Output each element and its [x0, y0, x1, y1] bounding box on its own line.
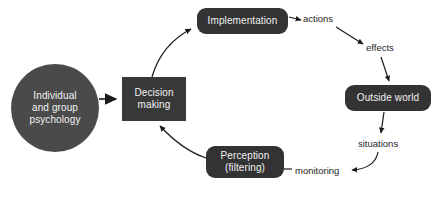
edge-outside-world-to-situations [381, 112, 384, 133]
node-implementation[interactable]: Implementation [197, 8, 288, 34]
node-label-line-2: (filtering) [221, 162, 270, 174]
node-label: Outside world [357, 92, 419, 104]
node-label-wrap: Decision making [134, 87, 173, 111]
edge-decision-to-implementation [152, 29, 191, 77]
edge-label-actions: actions [303, 13, 333, 24]
edge-actions-to-effects [336, 27, 363, 44]
figure-caption [8, 188, 428, 197]
edge-label-monitoring: monitoring [295, 165, 339, 176]
edge-situations-to-monitoring [352, 152, 378, 170]
node-decision-making[interactable]: Decision making [122, 77, 186, 121]
node-label-wrap: Perception (filtering) [221, 150, 270, 174]
node-outside-world[interactable]: Outside world [345, 85, 431, 111]
node-label-line-2: and group [29, 102, 80, 114]
node-individual-and-group-psychology[interactable]: Individual and group psychology [11, 64, 99, 152]
edge-effects-to-outside-world [381, 57, 389, 81]
node-label-line-1: Decision [134, 87, 173, 99]
node-label-line-2: making [134, 99, 173, 111]
edge-implementation-to-actions [289, 17, 301, 20]
edge-label-situations: situations [358, 138, 398, 149]
node-label-line-1: Perception [221, 150, 270, 162]
node-label-wrap: Individual and group psychology [29, 90, 80, 125]
edge-label-effects: effects [366, 42, 394, 53]
node-perception-filtering[interactable]: Perception (filtering) [206, 146, 284, 178]
node-label-line-3: psychology [29, 114, 80, 126]
node-label-line-1: Individual [29, 90, 80, 102]
node-label: Implementation [208, 15, 278, 27]
diagram-canvas: Individual and group psychology Decision… [0, 0, 436, 197]
edge-perception-to-decision [160, 126, 206, 158]
